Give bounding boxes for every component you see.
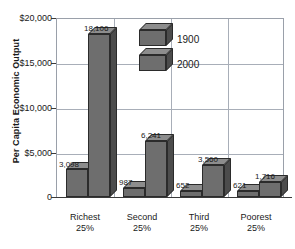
bar-second-2000 (145, 141, 167, 197)
bar-poorest-2000 (259, 182, 281, 197)
y-tick-label-5000: $5,000 (0, 148, 52, 158)
bar-chart: Per Capita Economic Output $20,000 $15,0… (0, 0, 295, 249)
bar-value-second-1900: 987 (119, 178, 132, 187)
bar-front-face (259, 182, 281, 197)
category-label-third: Third 25% (167, 212, 231, 234)
bar-side-face (167, 134, 174, 197)
legend-swatch-2000 (139, 55, 166, 71)
category-label-line1: Poorest (224, 212, 288, 223)
legend-swatch-1900 (139, 30, 166, 46)
bar-value-richest-2000: 18,106 (84, 24, 108, 33)
y-tick-label-20000: $20,000 (0, 13, 52, 23)
y-tick-label-0: 0 (0, 192, 52, 202)
category-label-line1: Second (110, 212, 174, 223)
legend-label-2000: 2000 (177, 59, 199, 70)
bar-third-2000 (202, 165, 224, 197)
category-label-line2: 25% (167, 223, 231, 234)
legend-swatch-face (139, 30, 166, 46)
bar-value-third-1900: 652 (176, 181, 189, 190)
bar-value-poorest-1900: 621 (233, 181, 246, 190)
bar-richest-2000 (88, 34, 110, 197)
category-label-line1: Richest (53, 212, 117, 223)
category-label-richest: Richest 25% (53, 212, 117, 234)
y-tick-label-15000: $15,000 (0, 58, 52, 68)
category-label-line2: 25% (224, 223, 288, 234)
bar-side-face (110, 27, 117, 197)
x-axis-baseline (56, 197, 292, 198)
bar-second-1900 (123, 188, 145, 197)
category-label-second: Second 25% (110, 212, 174, 234)
bar-richest-1900 (66, 169, 88, 197)
category-label-line1: Third (167, 212, 231, 223)
bar-front-face (88, 34, 110, 197)
legend-label-1900: 1900 (177, 34, 199, 45)
bar-value-third-2000: 3,560 (198, 155, 218, 164)
bar-value-second-2000: 6,241 (141, 131, 161, 140)
bar-front-face (66, 169, 88, 197)
category-label-line2: 25% (110, 223, 174, 234)
bar-value-poorest-2000: 1,716 (255, 172, 275, 181)
category-label-poorest: Poorest 25% (224, 212, 288, 234)
bar-front-face (123, 188, 145, 197)
legend-swatch-face (139, 55, 166, 71)
category-label-line2: 25% (53, 223, 117, 234)
bar-front-face (202, 165, 224, 197)
bar-front-face (145, 141, 167, 197)
bar-value-richest-1900: 3,098 (59, 160, 79, 169)
y-tick-label-10000: $10,000 (0, 103, 52, 113)
